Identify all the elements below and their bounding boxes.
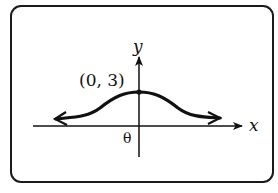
graph-plot [0,0,278,193]
origin-label: θ [123,130,131,146]
x-axis-label: x [249,115,259,135]
bell-curve [56,92,220,119]
point-label: (0, 3) [79,70,125,90]
peak-point [136,89,141,94]
y-axis-label: y [133,36,143,56]
